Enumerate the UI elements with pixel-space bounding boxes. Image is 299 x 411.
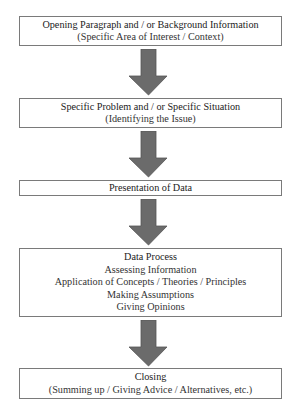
step-title: Specific Problem and / or Specific Situa… xyxy=(20,101,281,114)
step-line: Giving Opinions xyxy=(20,301,281,314)
down-arrow-icon xyxy=(128,199,168,246)
step-title: Opening Paragraph and / or Background In… xyxy=(20,19,281,32)
step-box-problem: Specific Problem and / or Specific Situa… xyxy=(19,98,282,128)
step-line: Assessing Information xyxy=(20,264,281,277)
step-subtitle: (Specific Area of Interest / Context) xyxy=(20,31,281,44)
step-line: Application of Concepts / Theories / Pri… xyxy=(20,276,281,289)
step-title: Data Process xyxy=(20,251,281,264)
step-box-data-process: Data Process Assessing Information Appli… xyxy=(19,248,282,317)
step-title: Presentation of Data xyxy=(20,182,281,195)
step-subtitle: (Identifying the Issue) xyxy=(20,113,281,126)
down-arrow-icon xyxy=(128,131,168,178)
down-arrow-icon xyxy=(128,320,168,367)
step-box-closing: Closing (Summing up / Giving Advice / Al… xyxy=(19,368,282,399)
step-line: Making Assumptions xyxy=(20,289,281,302)
step-box-presentation: Presentation of Data xyxy=(19,180,282,196)
step-title: Closing xyxy=(20,371,281,384)
down-arrow-icon xyxy=(128,49,168,96)
step-box-opening: Opening Paragraph and / or Background In… xyxy=(19,16,282,46)
step-subtitle: (Summing up / Giving Advice / Alternativ… xyxy=(20,384,281,397)
